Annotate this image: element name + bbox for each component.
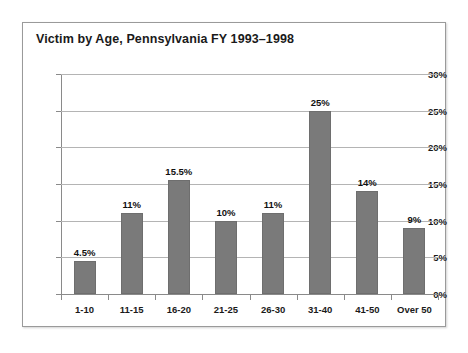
x-axis-tick (438, 295, 439, 300)
bar-slot: 15.5% (155, 74, 202, 294)
x-axis-tick (108, 295, 109, 300)
chart-frame: Victim by Age, Pennsylvania FY 1993–1998… (22, 22, 446, 327)
bar-value-label: 14% (358, 177, 377, 188)
bar[interactable] (262, 213, 284, 294)
bar-value-label: 11% (122, 199, 141, 210)
bar-slot: 14% (344, 74, 391, 294)
x-axis-tick (61, 295, 62, 300)
bar-value-label: 4.5% (74, 247, 96, 258)
bar[interactable] (74, 261, 96, 294)
bar-slot: 4.5% (61, 74, 108, 294)
bar[interactable] (356, 191, 378, 294)
bar-slot: 25% (297, 74, 344, 294)
bar-slot: 9% (391, 74, 438, 294)
bar-value-label: 15.5% (165, 166, 192, 177)
x-axis-tick (202, 295, 203, 300)
bar[interactable] (121, 213, 143, 294)
bar-slot: 11% (108, 74, 155, 294)
x-axis-tick (344, 295, 345, 300)
bar-value-label: 25% (311, 97, 330, 108)
plot-area: 4.5%11%15.5%10%11%25%14%9% (61, 74, 438, 294)
bar-value-label: 9% (408, 214, 422, 225)
bar-slot: 11% (250, 74, 297, 294)
x-axis-label: Over 50 (379, 304, 449, 315)
x-axis-tick (155, 295, 156, 300)
x-axis-tick (250, 295, 251, 300)
bar-value-label: 10% (216, 207, 235, 218)
bar[interactable] (309, 111, 331, 294)
bar-slot: 10% (202, 74, 249, 294)
x-axis-tick (391, 295, 392, 300)
bar[interactable] (215, 221, 237, 294)
x-axis: 1-1011-1516-2021-2526-3031-4041-50Over 5… (61, 295, 438, 325)
plot-wrapper: 0%5%10%15%20%25%30% 4.5%11%15.5%10%11%25… (23, 23, 447, 328)
bar[interactable] (168, 180, 190, 294)
bar[interactable] (403, 228, 425, 294)
x-axis-tick (297, 295, 298, 300)
bar-value-label: 11% (264, 199, 283, 210)
